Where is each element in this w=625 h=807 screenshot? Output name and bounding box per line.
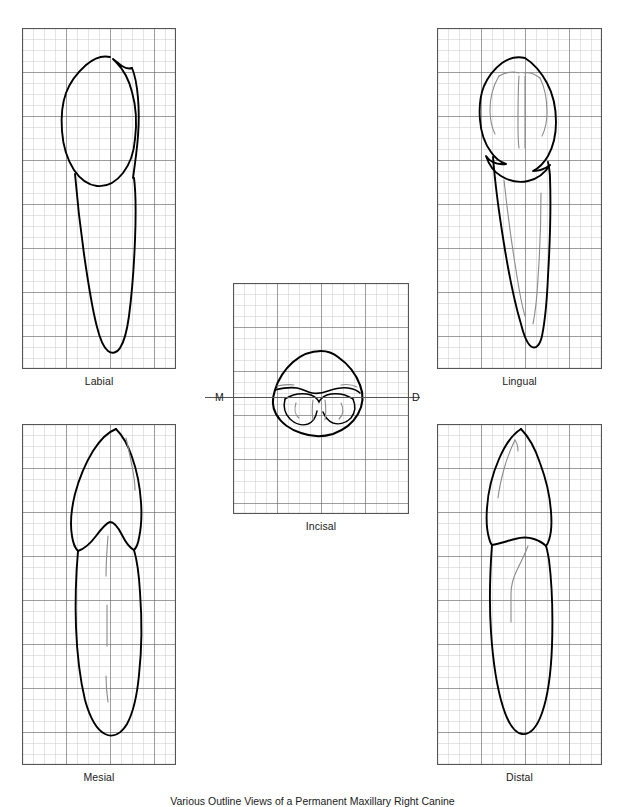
panel-label-labial: Labial: [22, 375, 176, 387]
panel-label-incisal: Incisal: [233, 520, 409, 532]
panel-label-distal: Distal: [437, 771, 602, 783]
panel-lingual: [437, 28, 602, 369]
panel-label-lingual: Lingual: [437, 375, 602, 387]
panel-mesial: [22, 424, 176, 765]
distal-marker: D: [412, 391, 420, 403]
panel-label-mesial: Mesial: [22, 771, 176, 783]
panel-distal: [437, 424, 602, 765]
mesial-distal-axis: [205, 396, 420, 399]
distal-drawing: [437, 424, 602, 765]
mesial-drawing: [22, 424, 176, 765]
lingual-drawing: [437, 28, 602, 369]
figure-caption: Various Outline Views of a Permanent Max…: [0, 795, 625, 807]
mesial-marker: M: [215, 391, 224, 403]
labial-drawing: [22, 28, 176, 369]
panel-labial: [22, 28, 176, 369]
